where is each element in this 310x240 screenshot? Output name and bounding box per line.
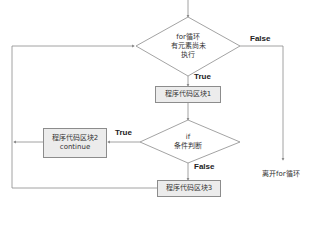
code-block-2: 程序代码区块2 continue [43,128,107,158]
code-block-1: 程序代码区块1 [155,86,221,103]
loop-condition-line-2: 有元素尚未 [158,42,218,51]
code-block-1-label: 程序代码区块1 [165,90,211,99]
loop-condition-diamond: for循环 有元素尚未 执行 [158,33,218,60]
loop-condition-line-3: 执行 [158,51,218,60]
if-condition-line-2: 条件判断 [163,142,213,151]
code-block-2-label: 程序代码区块2 [52,134,98,143]
if-false-label: False [194,162,214,171]
code-block-3-label: 程序代码区块3 [166,184,212,193]
exit-loop-label: 离开for循环 [262,170,300,179]
code-block-3: 程序代码区块3 [157,180,221,197]
if-true-label: True [115,128,132,137]
code-block-2-sublabel: continue [60,143,90,152]
loop-true-label: True [194,72,211,81]
loop-false-label: False [250,34,270,43]
loop-condition-line-1: for循环 [158,33,218,42]
if-condition-diamond: if 条件判断 [163,133,213,151]
if-condition-line-1: if [163,133,213,142]
